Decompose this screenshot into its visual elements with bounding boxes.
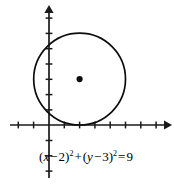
circle-equation-label: (x−2)2+(y−3)2=9: [0, 150, 174, 163]
circle-graph-figure: (x−2)2+(y−3)2=9: [0, 0, 174, 184]
y-axis-arrowhead: [44, 5, 53, 13]
equation-minus-1: −: [49, 149, 58, 164]
equation-r-squared-value: 9: [126, 149, 133, 164]
x-axis-arrowhead: [164, 120, 172, 129]
x-axis-group: [10, 120, 172, 129]
equation-equals: =: [117, 149, 126, 164]
center-point-marker: [77, 76, 83, 82]
equation-variable-y: y: [87, 149, 93, 164]
equation-minus-2: −: [93, 149, 102, 164]
equation-plus: +: [73, 149, 82, 164]
